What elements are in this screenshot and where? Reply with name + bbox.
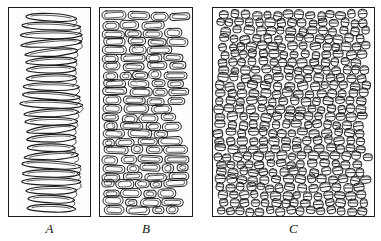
panel-a-label: A bbox=[8, 222, 91, 235]
panel-b-illustration bbox=[100, 8, 192, 216]
panel-c-label: C bbox=[212, 222, 375, 235]
panel-c bbox=[212, 7, 375, 217]
panel-b bbox=[99, 7, 193, 217]
panel-c-illustration bbox=[213, 8, 374, 216]
panel-b-label: B bbox=[99, 222, 193, 235]
figure-root: A B C bbox=[0, 0, 381, 241]
panel-a bbox=[8, 7, 91, 217]
panel-a-illustration bbox=[9, 8, 90, 216]
